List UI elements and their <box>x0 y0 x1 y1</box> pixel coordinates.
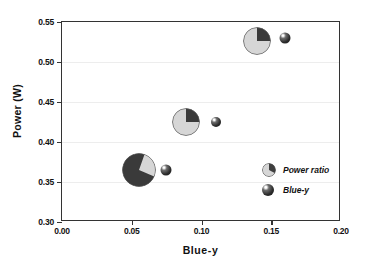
y-tick-label: 0.50 <box>38 57 54 67</box>
x-tick <box>132 220 133 225</box>
legend-label-blue-y: Blue-y <box>283 185 309 195</box>
x-tick-label: 0.05 <box>124 226 140 236</box>
legend-item-blue-y: Blue-y <box>262 180 362 200</box>
y-axis-title: Power (W) <box>11 46 23 176</box>
x-tick-label: 0.10 <box>194 226 210 236</box>
y-tick-label: 0.55 <box>38 17 54 27</box>
sphere-marker-icon <box>262 184 274 196</box>
y-tick <box>57 22 62 23</box>
y-tick-label: 0.35 <box>38 177 54 187</box>
legend-item-power-ratio: Power ratio <box>262 160 362 180</box>
x-tick <box>271 220 272 225</box>
legend-label-power-ratio: Power ratio <box>283 165 329 175</box>
y-tick-label: 0.45 <box>38 97 54 107</box>
pie-marker-icon <box>172 108 200 136</box>
y-tick <box>57 182 62 183</box>
y-tick <box>57 222 62 223</box>
pie-marker-icon <box>243 27 271 55</box>
x-tick-label: 0.15 <box>263 226 279 236</box>
scatter-chart-figure: 0.300.350.400.450.500.55 0.000.050.100.1… <box>0 0 369 268</box>
x-tick-label: 0.00 <box>54 226 70 236</box>
y-tick-label: 0.40 <box>38 137 54 147</box>
y-tick-label: 0.30 <box>38 217 54 227</box>
pie-marker-icon <box>262 163 276 177</box>
y-tick <box>57 142 62 143</box>
y-tick <box>57 102 62 103</box>
chart-legend: Power ratio Blue-y <box>262 160 362 200</box>
gridline <box>62 62 339 63</box>
x-axis-title: Blue-y <box>61 244 340 256</box>
x-tick <box>202 220 203 225</box>
gridline <box>62 102 339 103</box>
pie-marker-icon <box>122 153 156 187</box>
gridline <box>62 142 339 143</box>
sphere-marker-icon <box>211 117 221 127</box>
y-tick <box>57 62 62 63</box>
sphere-marker-icon <box>160 165 171 176</box>
sphere-marker-icon <box>280 33 291 44</box>
x-tick-label: 0.20 <box>333 226 349 236</box>
